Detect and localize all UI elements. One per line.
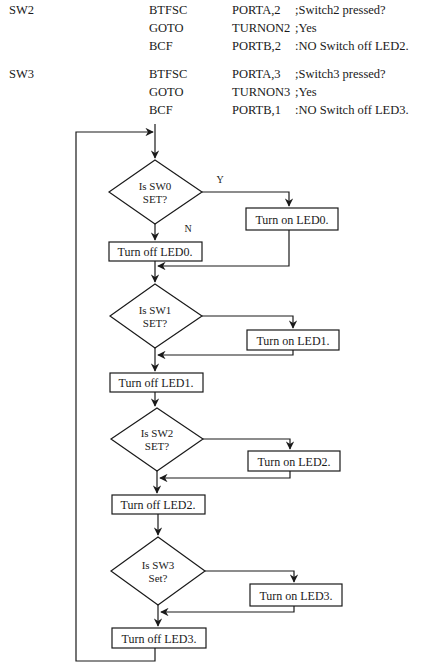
yes-label: Y	[216, 174, 223, 185]
no-label: N	[184, 223, 191, 234]
action-text: Turn on LED2.	[257, 455, 330, 469]
yes-branch-sw1	[202, 316, 293, 328]
merge-sw3	[161, 606, 294, 612]
decision-diamond-sw3	[111, 537, 205, 605]
action-text: Turn off LED1.	[118, 376, 193, 390]
merge-sw1	[158, 350, 293, 355]
yes-branch-sw3	[205, 571, 294, 582]
decision-text: Is SW2	[141, 427, 174, 439]
decision-diamond-sw0	[109, 160, 202, 224]
decision-text: Set?	[149, 572, 168, 584]
merge-sw2	[160, 471, 290, 478]
action-text: Turn on LED3.	[259, 589, 332, 603]
led-switch-flowchart: Y N Is SW0 SET? Turn on LED0. Turn off L…	[0, 0, 423, 668]
action-text: Turn off LED2.	[120, 498, 195, 512]
decision-text: SET?	[143, 193, 168, 205]
decision-text: SET?	[145, 440, 170, 452]
action-text: Turn on LED1.	[256, 334, 329, 348]
action-text: Turn off LED0.	[117, 245, 192, 259]
decision-text: Is SW1	[139, 304, 172, 316]
decision-text: Is SW0	[139, 180, 172, 192]
decision-text: SET?	[143, 317, 168, 329]
yes-branch-sw2	[203, 439, 290, 449]
decision-diamond-sw1	[110, 284, 202, 348]
yes-branch-sw0	[202, 192, 289, 206]
decision-text: Is SW3	[142, 559, 175, 571]
action-text: Turn off LED3.	[121, 632, 196, 646]
action-text: Turn on LED0.	[255, 213, 328, 227]
